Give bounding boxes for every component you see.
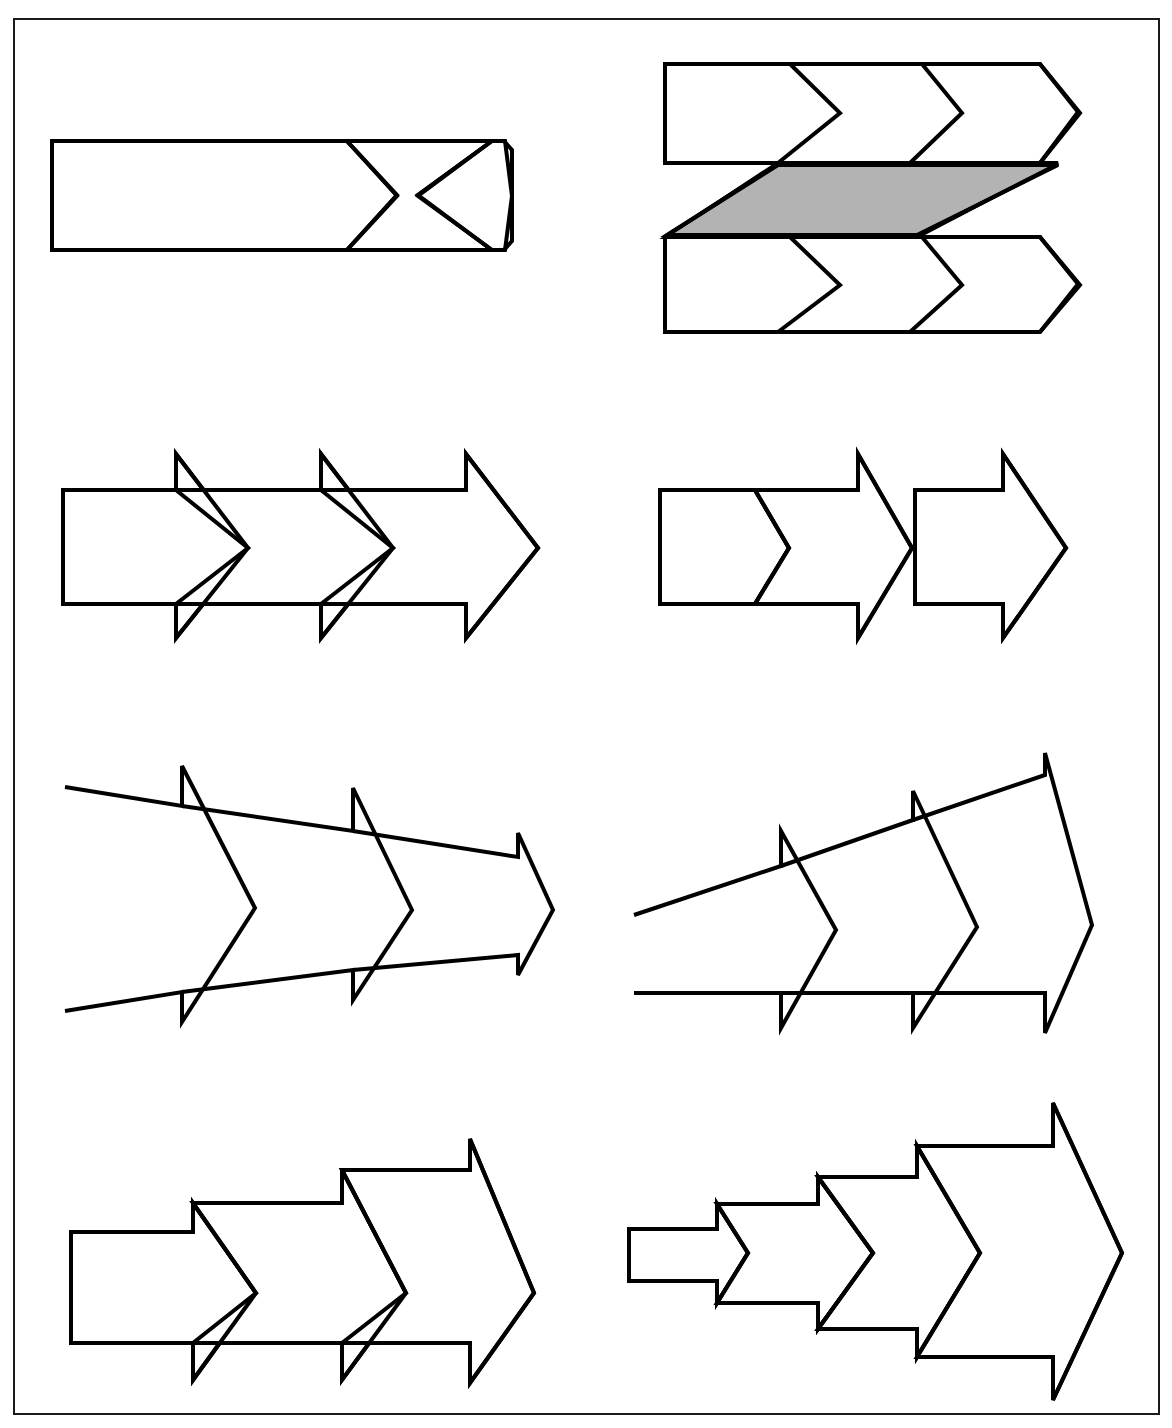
figure-2-upper-band[interactable]	[665, 64, 1078, 163]
figure-1-chevron-band-three-segment[interactable]	[52, 141, 512, 250]
figure-sheet-page	[0, 0, 1172, 1428]
figure-1-outline[interactable]	[52, 141, 397, 250]
figure-2-lower-band[interactable]	[665, 237, 1078, 332]
